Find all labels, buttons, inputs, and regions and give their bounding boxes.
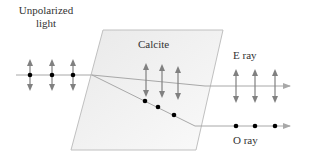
dot-icon bbox=[156, 105, 161, 110]
calcite-label: Calcite bbox=[138, 38, 169, 51]
dot-icon bbox=[253, 124, 258, 129]
incident-label-line2: light bbox=[18, 17, 74, 30]
dot-icon bbox=[273, 124, 278, 129]
incident-light-label: Unpolarized light bbox=[18, 4, 74, 30]
double-arrow-icon bbox=[49, 59, 55, 91]
incident-label-line1: Unpolarized bbox=[18, 4, 74, 17]
e-ray-label: E ray bbox=[233, 49, 257, 62]
double-arrow-icon bbox=[70, 59, 76, 91]
dot-icon bbox=[172, 113, 177, 118]
double-arrow-icon bbox=[27, 59, 33, 91]
o-ray-label: O ray bbox=[233, 134, 258, 147]
dot-icon bbox=[143, 99, 148, 104]
dot-icon bbox=[234, 124, 239, 129]
